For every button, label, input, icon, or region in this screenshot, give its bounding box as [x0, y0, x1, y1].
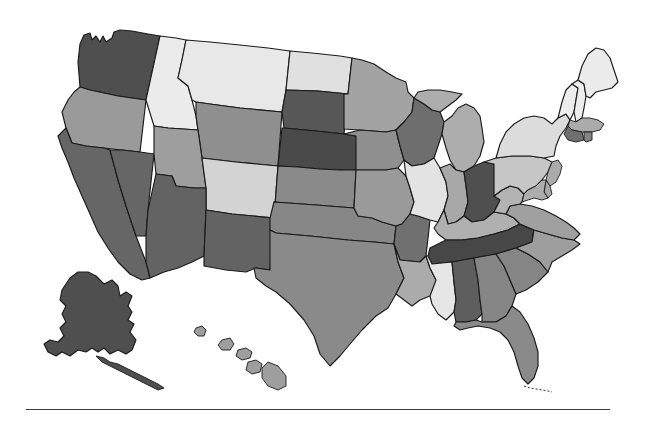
- alaska-aleutians: [96, 356, 164, 390]
- state-TX[interactable]: [254, 230, 404, 366]
- us-choropleth-map: [0, 0, 656, 428]
- state-RI[interactable]: [584, 132, 592, 142]
- florida-keys: [524, 386, 552, 392]
- state-MT[interactable]: [178, 40, 290, 112]
- state-NM[interactable]: [204, 210, 274, 272]
- state-ND[interactable]: [286, 51, 352, 94]
- state-HI-isl-3[interactable]: [236, 348, 252, 360]
- footer-horizontal-rule: [26, 409, 610, 410]
- state-WY[interactable]: [196, 102, 282, 166]
- state-NY[interactable]: [496, 114, 570, 158]
- state-CO[interactable]: [202, 158, 278, 218]
- state-HI-isl-4[interactable]: [246, 360, 262, 374]
- state-HI-isl-1[interactable]: [194, 326, 206, 336]
- choropleth-figure: [0, 0, 656, 428]
- state-MN[interactable]: [344, 58, 414, 132]
- state-HI-isl-2[interactable]: [218, 338, 234, 350]
- state-AZ[interactable]: [146, 174, 206, 278]
- state-HI-isl-5[interactable]: [262, 362, 286, 390]
- state-AK[interactable]: [44, 272, 136, 356]
- state-SD[interactable]: [282, 90, 348, 134]
